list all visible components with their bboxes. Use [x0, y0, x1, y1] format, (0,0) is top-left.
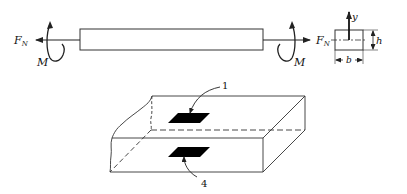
left-moment-arrow [47, 21, 64, 61]
label-4: 4 [201, 178, 207, 189]
leader-4 [184, 157, 197, 177]
leader-1 [190, 87, 220, 113]
element-4 [168, 147, 210, 157]
stress-block [110, 96, 305, 172]
right-moment-arrow [278, 21, 295, 61]
left-force-label: FN [13, 34, 29, 48]
y-axis-label: y [351, 11, 358, 22]
left-moment-label: M [36, 56, 49, 69]
element-1 [168, 113, 210, 123]
height-label: h [376, 35, 382, 46]
label-1: 1 [222, 80, 228, 91]
right-force-label: FN [315, 34, 331, 48]
right-moment-label: M [293, 56, 306, 69]
width-label: b [346, 55, 352, 65]
beam-diagram: FN M FN M y h b [0, 0, 407, 194]
beam [36, 29, 310, 50]
